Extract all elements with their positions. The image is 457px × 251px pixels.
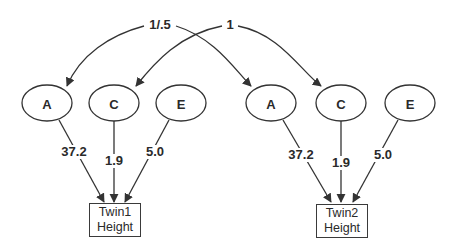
path-a-twin1-value: 37.2 [59, 145, 88, 159]
path-e-twin1-value: 5.0 [144, 145, 166, 159]
twin1-box-line2: Height [90, 220, 140, 235]
path-e-twin1 [125, 120, 169, 202]
twin1-box-line1: Twin1 [90, 205, 140, 220]
additive-correlation-label: 1/.5 [147, 18, 173, 32]
common-correlation-label: 1 [224, 18, 235, 32]
twin2-box-line1: Twin2 [317, 206, 367, 221]
twin2-box-line2: Height [317, 221, 367, 236]
path-a-twin2-value: 37.2 [286, 148, 315, 162]
a-correlation-curve-right [176, 26, 251, 86]
path-c-twin2-value: 1.9 [330, 156, 352, 170]
a-correlation-curve-left [67, 26, 144, 86]
path-e-twin2-value: 5.0 [372, 148, 394, 162]
c-correlation-curve-left [136, 26, 222, 86]
twin2-height-box: Twin2 Height [316, 204, 368, 238]
latent-c-twin2-label: C [336, 97, 345, 112]
latent-e-twin2-label: E [406, 97, 415, 112]
latent-a-twin1-label: A [42, 97, 51, 112]
twin1-height-box: Twin1 Height [89, 203, 141, 237]
latent-c-twin1-label: C [109, 97, 118, 112]
latent-e-twin1-label: E [177, 97, 186, 112]
latent-a-twin2-label: A [266, 97, 275, 112]
path-c-twin1-value: 1.9 [103, 154, 125, 168]
diagram-canvas [0, 0, 457, 251]
c-correlation-curve-right [238, 26, 321, 86]
path-a-twin1 [59, 120, 104, 202]
